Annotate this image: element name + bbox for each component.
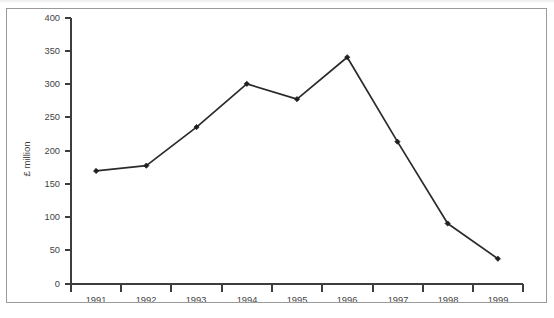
y-axis-title: £ million xyxy=(21,141,32,176)
y-tick-label: 0 xyxy=(55,279,60,289)
x-tick-label: 1998 xyxy=(438,295,459,302)
y-axis-ticks xyxy=(65,18,71,284)
y-tick-label: 300 xyxy=(44,79,60,89)
data-point-marker xyxy=(94,168,99,173)
y-tick-label: 200 xyxy=(44,146,60,156)
x-tick-label: 1999 xyxy=(488,295,509,302)
x-tick-label: 1995 xyxy=(287,295,308,302)
x-tick-label: 1994 xyxy=(237,295,258,302)
x-tick-label: 1991 xyxy=(86,295,107,302)
y-axis-tick-labels: 400 350 300 250 200 150 100 50 0 xyxy=(44,13,60,289)
y-tick-label: 150 xyxy=(44,179,60,189)
x-tick-label: 1992 xyxy=(136,295,157,302)
chart-frame-border: 400 350 300 250 200 150 100 50 0 £ milli… xyxy=(6,8,547,303)
x-tick-label: 1993 xyxy=(186,295,207,302)
x-tick-label: 1996 xyxy=(337,295,358,302)
line-chart-plot: 400 350 300 250 200 150 100 50 0 £ milli… xyxy=(7,9,546,302)
cut-off-caption-sliver xyxy=(0,0,554,3)
x-axis-ticks xyxy=(71,284,523,292)
data-point-markers xyxy=(94,55,501,262)
x-tick-label: 1997 xyxy=(388,295,409,302)
y-tick-label: 50 xyxy=(50,245,60,255)
chart-figure: 400 350 300 250 200 150 100 50 0 £ milli… xyxy=(0,0,554,318)
y-tick-label: 350 xyxy=(44,46,60,56)
y-tick-label: 250 xyxy=(44,112,60,122)
y-tick-label: 400 xyxy=(44,13,60,23)
y-tick-label: 100 xyxy=(44,212,60,222)
data-line-series xyxy=(96,57,498,258)
x-axis-tick-labels: 1991 1992 1993 1994 1995 1996 1997 1998 … xyxy=(86,295,509,302)
